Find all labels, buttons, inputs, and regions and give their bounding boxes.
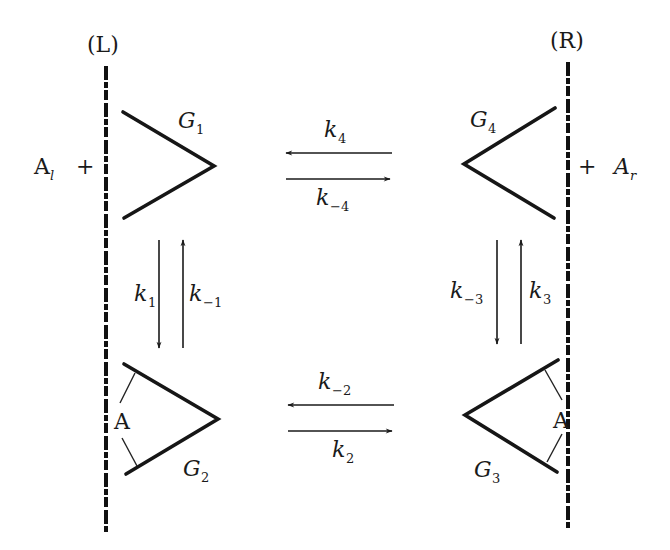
svg-text:l: l <box>50 168 54 183</box>
svg-text:G: G <box>470 107 488 132</box>
label-k1: k 1 <box>134 281 156 310</box>
left-substrate: A l + <box>33 154 94 183</box>
svg-text:1: 1 <box>148 295 156 310</box>
left-plus: + <box>76 154 94 179</box>
svg-text:3: 3 <box>492 471 500 486</box>
svg-text:k: k <box>529 278 542 303</box>
bond-g2-bottom <box>122 438 137 466</box>
svg-text:G: G <box>474 457 492 482</box>
bond-g2-top <box>120 373 135 403</box>
ligand-a-right: A <box>552 408 570 433</box>
label-k-1: k −1 <box>189 281 222 310</box>
svg-text:−3: −3 <box>464 292 483 307</box>
svg-text:k: k <box>324 117 337 142</box>
svg-text:2: 2 <box>201 470 209 485</box>
svg-text:A: A <box>612 154 630 179</box>
svg-text:2: 2 <box>346 451 354 466</box>
bond-g3-top <box>545 370 562 400</box>
label-g2: G 2 <box>183 456 209 485</box>
right-side-label: (R) <box>550 28 584 53</box>
svg-text:4: 4 <box>338 131 346 146</box>
label-k-3: k −3 <box>450 278 483 307</box>
label-k2: k 2 <box>332 437 354 466</box>
label-g4: G 4 <box>470 107 496 136</box>
svg-text:k: k <box>316 185 329 210</box>
label-g3: G 3 <box>474 457 500 486</box>
right-plus: + <box>578 154 596 179</box>
svg-text:k: k <box>332 437 345 462</box>
label-k-2: k −2 <box>318 369 351 398</box>
svg-text:k: k <box>134 281 147 306</box>
svg-text:k: k <box>450 278 463 303</box>
svg-text:k: k <box>189 281 202 306</box>
svg-text:k: k <box>318 369 331 394</box>
svg-text:−1: −1 <box>203 295 222 310</box>
carrier-g2 <box>124 364 218 474</box>
label-k3: k 3 <box>529 278 551 307</box>
label-g1: G 1 <box>178 108 204 137</box>
svg-text:G: G <box>183 456 201 481</box>
svg-text:r: r <box>630 168 637 183</box>
svg-text:1: 1 <box>196 122 204 137</box>
svg-text:A: A <box>33 154 51 179</box>
transport-kinetic-diagram: (L) (R) A l + + A r G 1 G 4 A G 2 A G 3 <box>0 0 670 550</box>
svg-text:−4: −4 <box>330 199 349 214</box>
bond-g3-bottom <box>547 434 562 462</box>
svg-text:3: 3 <box>543 292 551 307</box>
svg-text:4: 4 <box>488 121 496 136</box>
svg-text:−2: −2 <box>332 383 351 398</box>
label-k4: k 4 <box>324 117 346 146</box>
label-k-4: k −4 <box>316 185 349 214</box>
right-substrate: + A r <box>578 154 637 183</box>
ligand-a-left: A <box>113 409 131 434</box>
svg-text:G: G <box>178 108 196 133</box>
left-side-label: (L) <box>87 32 119 57</box>
carrier-g3 <box>465 360 558 472</box>
